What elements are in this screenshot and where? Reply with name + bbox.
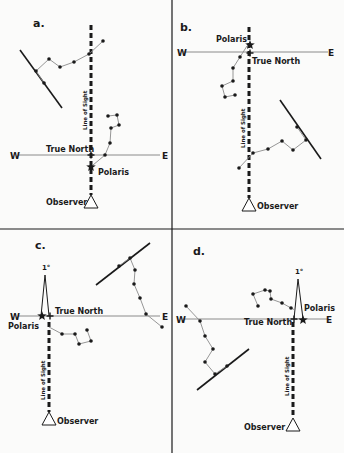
west-label: W bbox=[177, 48, 187, 58]
one-degree-label: 1° bbox=[295, 268, 303, 276]
true-north-label: True North bbox=[46, 145, 94, 154]
little-dipper-star bbox=[73, 332, 77, 336]
one-degree-wedge bbox=[41, 275, 49, 316]
true-north-label: True North bbox=[252, 57, 300, 66]
big-dipper-star bbox=[251, 151, 255, 155]
big-dipper-star bbox=[144, 312, 148, 316]
little-dipper-star bbox=[106, 114, 110, 118]
polaris-label: Polaris bbox=[216, 35, 247, 44]
big-dipper-star bbox=[184, 304, 188, 308]
big-dipper-star bbox=[42, 81, 46, 85]
big-dipper-star bbox=[117, 264, 121, 268]
polaris-label: Polaris bbox=[8, 322, 39, 331]
little-dipper-star bbox=[85, 328, 89, 332]
little-dipper-star bbox=[268, 289, 272, 293]
little-dipper-outline bbox=[49, 327, 91, 344]
big-dipper-axis-line bbox=[280, 100, 321, 159]
big-dipper-star bbox=[87, 52, 91, 56]
little-dipper-star bbox=[109, 126, 113, 130]
west-label: W bbox=[176, 315, 186, 325]
panel-label: b. bbox=[180, 21, 192, 34]
little-dipper-star bbox=[231, 66, 235, 70]
big-dipper-star bbox=[213, 372, 217, 376]
observer-label: Observer bbox=[57, 417, 98, 426]
big-dipper-star bbox=[203, 360, 207, 364]
big-dipper-star bbox=[133, 268, 137, 272]
true-north-label: True North bbox=[55, 307, 103, 316]
little-dipper-star bbox=[263, 288, 267, 292]
panel-a: a.WELine of SightTrue NorthPolarisObserv… bbox=[10, 17, 168, 208]
big-dipper-star bbox=[101, 39, 105, 43]
observer-label: Observer bbox=[257, 202, 298, 211]
little-dipper-star bbox=[233, 93, 237, 97]
panel-label: a. bbox=[33, 17, 45, 30]
big-dipper-star bbox=[138, 296, 142, 300]
big-dipper-star bbox=[132, 282, 136, 286]
big-dipper-star bbox=[160, 325, 164, 329]
polaris-star-icon bbox=[298, 315, 308, 324]
little-dipper-star bbox=[220, 84, 224, 88]
little-dipper-outline bbox=[93, 115, 119, 165]
diagram-canvas: a.WELine of SightTrue NorthPolarisObserv… bbox=[0, 0, 344, 453]
little-dipper-star bbox=[77, 342, 81, 346]
west-label: W bbox=[10, 312, 20, 322]
one-degree-wedge bbox=[294, 279, 303, 319]
little-dipper-star bbox=[251, 292, 255, 296]
big-dipper-star bbox=[291, 148, 295, 152]
little-dipper-star bbox=[256, 304, 260, 308]
big-dipper-outline bbox=[36, 41, 103, 83]
observer-triangle-icon bbox=[286, 418, 300, 431]
polaris-figure: a.WELine of SightTrue NorthPolarisObserv… bbox=[0, 0, 344, 453]
panel-b: b.WELine of SightTrue NorthPolarisObserv… bbox=[177, 21, 334, 211]
big-dipper-star bbox=[58, 65, 62, 69]
big-dipper-outline bbox=[119, 258, 162, 327]
east-label: E bbox=[328, 48, 334, 58]
west-label: W bbox=[10, 151, 20, 161]
big-dipper-star bbox=[198, 319, 202, 323]
line-of-sight-label: Line of Sight bbox=[82, 90, 89, 130]
true-north-label: True North bbox=[244, 318, 292, 327]
one-degree-label: 1° bbox=[42, 264, 50, 272]
observer-triangle-icon bbox=[242, 198, 256, 211]
little-dipper-star bbox=[289, 306, 293, 310]
panel-label: c. bbox=[35, 239, 46, 252]
line-of-sight-label: Line of Sight bbox=[40, 360, 47, 400]
big-dipper-star bbox=[211, 347, 215, 351]
polaris-label: Polaris bbox=[98, 168, 129, 177]
observer-label: Observer bbox=[46, 198, 87, 207]
little-dipper-outline bbox=[222, 46, 247, 97]
little-dipper-star bbox=[108, 141, 112, 145]
little-dipper-star bbox=[280, 301, 284, 305]
big-dipper-star bbox=[266, 147, 270, 151]
little-dipper-star bbox=[238, 55, 242, 59]
panel-label: d. bbox=[193, 245, 205, 258]
little-dipper-star bbox=[115, 113, 119, 117]
observer-triangle-icon bbox=[42, 412, 56, 425]
line-of-sight-label: Line of Sight bbox=[240, 108, 247, 148]
polaris-label: Polaris bbox=[304, 304, 335, 313]
big-dipper-star bbox=[225, 364, 229, 368]
big-dipper-star bbox=[280, 139, 284, 143]
big-dipper-star bbox=[295, 125, 299, 129]
big-dipper-axis-line bbox=[197, 349, 249, 390]
big-dipper-star bbox=[203, 334, 207, 338]
east-label: E bbox=[162, 151, 168, 161]
polaris-star-icon bbox=[37, 311, 47, 320]
little-dipper-star bbox=[231, 79, 235, 83]
east-label: E bbox=[326, 315, 332, 325]
little-dipper-star bbox=[223, 95, 227, 99]
big-dipper-star bbox=[304, 138, 308, 142]
observer-label: Observer bbox=[244, 423, 285, 432]
big-dipper-star bbox=[237, 166, 241, 170]
big-dipper-star bbox=[128, 256, 132, 260]
east-label: E bbox=[162, 312, 168, 322]
big-dipper-star bbox=[72, 60, 76, 64]
big-dipper-outline bbox=[186, 306, 227, 374]
little-dipper-star bbox=[269, 297, 273, 301]
big-dipper-axis-line bbox=[96, 243, 150, 285]
little-dipper-star bbox=[117, 123, 121, 127]
panel-c: c.WE1°Line of SightTrue NorthPolarisObse… bbox=[8, 239, 168, 426]
little-dipper-star bbox=[60, 332, 64, 336]
little-dipper-star bbox=[103, 153, 107, 157]
line-of-sight-label: Line of Sight bbox=[284, 356, 291, 396]
